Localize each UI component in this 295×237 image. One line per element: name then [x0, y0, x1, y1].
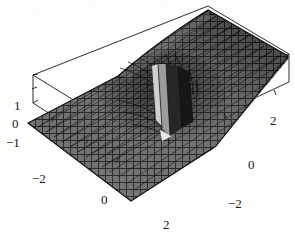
- tick-z-neg1: [33, 74, 38, 75]
- surface-plot-figure: 1 0 −1 −2 0 2 2 0 −2: [0, 0, 295, 237]
- tick-label-z-neg1: −1: [6, 136, 20, 149]
- tick-y-2: [274, 90, 276, 95]
- tick-label-x-0: 0: [101, 193, 108, 206]
- tick-label-x-neg2: −2: [32, 172, 46, 185]
- tick-label-z-0: 0: [12, 117, 19, 130]
- tick-label-y-0: 0: [248, 158, 255, 171]
- tick-label-z-1: 1: [14, 99, 21, 112]
- tick-label-y-2: 2: [270, 114, 277, 127]
- plot-canvas: [0, 0, 295, 237]
- tick-z-1: [33, 100, 38, 103]
- tick-label-y-neg2: −2: [228, 197, 242, 210]
- tick-label-x-2: 2: [163, 218, 170, 231]
